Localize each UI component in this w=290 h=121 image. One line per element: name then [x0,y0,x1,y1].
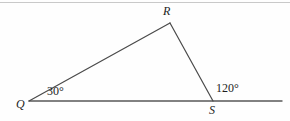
angle-label-s-120: 120° [216,82,239,94]
vertex-label-r: R [163,5,170,17]
vertex-label-s: S [209,104,215,116]
segment-rs [170,23,213,101]
geometry-figure: Q R S 30° 120° [0,0,290,121]
vertex-label-q: Q [16,98,25,110]
angle-label-q-30: 30° [47,85,64,97]
triangle-diagram-svg [0,0,290,121]
